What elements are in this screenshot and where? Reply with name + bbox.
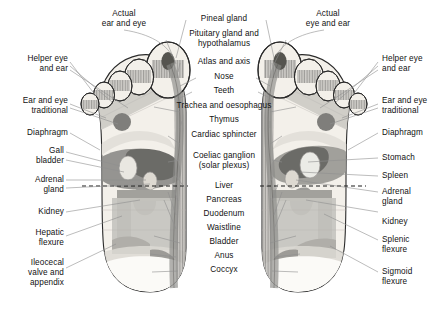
label-pineal-gland: Pineal gland: [164, 14, 284, 24]
label-hepatic-flexure: Hepatic flexure: [2, 228, 64, 248]
label-thymus: Thymus: [174, 115, 274, 125]
label-helper-eye-and-ear-right: Helper eye and ear: [382, 54, 448, 74]
label-nose: Nose: [174, 72, 274, 82]
label-kidney-left: Kidney: [2, 207, 64, 217]
label-liver: Liver: [174, 181, 274, 191]
label-bladder: Bladder: [174, 237, 274, 247]
label-kidney-right: Kidney: [382, 217, 448, 227]
label-trachea-and-oesophagus: Trachea and oesophagus: [148, 101, 300, 111]
label-spleen: Spleen: [382, 171, 448, 181]
label-ear-and-eye-traditional: Ear and eye traditional: [2, 96, 68, 116]
label-ear-and-eye-traditional-right: Ear and eye traditional: [382, 96, 448, 116]
label-coeliac-ganglion-solar-plexus: Coeliac ganglion (solar plexus): [160, 151, 288, 171]
label-anus: Anus: [174, 251, 274, 261]
label-waistline: Waistline: [170, 223, 278, 233]
label-stomach: Stomach: [382, 153, 448, 163]
label-ileocecal-valve-and-appendix: Ileocecal valve and appendix: [2, 258, 64, 289]
label-teeth: Teeth: [174, 86, 274, 96]
label-adrenal-gland-left: Adrenal gland: [2, 175, 64, 195]
label-pituitary-gland-and-hypothalamus: Pituitary gland and hypothalamus: [154, 29, 294, 49]
label-sigmoid-flexure: Sigmoid flexure: [382, 267, 448, 287]
label-atlas-and-axis: Atlas and axis: [164, 57, 284, 67]
label-cardiac-sphincter: Cardiac sphincter: [160, 130, 288, 140]
label-actual-ear-and-eye: Actual ear and eye: [82, 9, 166, 29]
label-diaphragm-right: Diaphragm: [382, 128, 448, 138]
label-duodenum: Duodenum: [170, 209, 278, 219]
label-splenic-flexure: Splenic flexure: [382, 235, 448, 255]
label-diaphragm-left: Diaphragm: [2, 128, 68, 138]
label-coccyx: Coccyx: [174, 265, 274, 275]
label-adrenal-gland-right: Adrenal gland: [382, 187, 448, 207]
label-pancreas: Pancreas: [170, 195, 278, 205]
label-gall-bladder: Gall bladder: [2, 146, 64, 166]
label-helper-eye-and-ear: Helper eye and ear: [2, 54, 68, 74]
label-actual-eye-and-ear: Actual eye and ear: [286, 9, 370, 29]
